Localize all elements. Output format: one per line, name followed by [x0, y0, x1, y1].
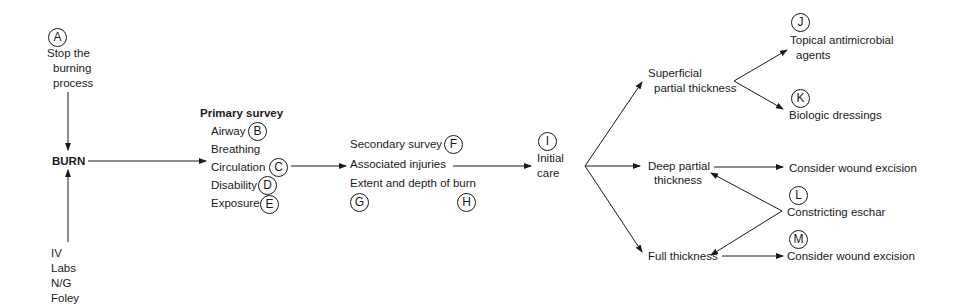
superficial-1: Superficial [648, 66, 702, 80]
label-c: C [269, 158, 288, 177]
extent-depth: Extent and depth of burn [350, 176, 476, 190]
label-l: L [789, 186, 808, 205]
label-h: H [457, 193, 476, 212]
initial-care-2: care [537, 166, 559, 180]
arrow-to-biologic [734, 81, 783, 109]
primary-disability: Disability [211, 178, 257, 192]
label-d: D [258, 176, 277, 195]
topical-2: agents [796, 48, 831, 62]
arrow-to-full [585, 166, 642, 252]
label-m: M [789, 230, 808, 249]
deep-1: Deep partial [648, 159, 710, 173]
stop-text-3: process [53, 76, 93, 90]
label-j: J [791, 13, 810, 32]
full-thickness: Full thickness [648, 249, 718, 263]
label-f: F [444, 135, 463, 154]
support-iv: IV [51, 246, 62, 260]
primary-survey-heading: Primary survey [200, 106, 283, 120]
primary-circulation: Circulation [211, 160, 265, 174]
superficial-2: partial thickness [654, 81, 736, 95]
arrow-to-topical [734, 50, 787, 81]
initial-care-1: Initial [537, 151, 564, 165]
support-ng: N/G [51, 276, 71, 290]
label-e: E [260, 195, 279, 214]
constricting-eschar: Constricting eschar [787, 205, 885, 219]
primary-breathing: Breathing [211, 142, 260, 156]
label-i: I [538, 132, 557, 151]
secondary-survey: Secondary survey [350, 137, 442, 151]
primary-airway: Airway [211, 124, 246, 138]
arrow-to-superficial [585, 82, 642, 166]
label-b: B [248, 122, 267, 141]
arrow-eschar-to-deep [711, 173, 782, 211]
full-excision: Consider wound excision [787, 249, 915, 263]
primary-exposure: Exposure [211, 196, 260, 210]
topical-1: Topical antimicrobial [790, 33, 894, 47]
stop-text-2: burning [53, 61, 91, 75]
label-a: A [48, 28, 67, 47]
support-foley: Foley [51, 291, 79, 305]
label-k: K [791, 89, 810, 108]
burn-node: BURN [52, 154, 85, 168]
deep-2: thickness [654, 173, 702, 187]
label-g: G [350, 193, 369, 212]
biologic-dressings: Biologic dressings [789, 108, 882, 122]
associated-injuries: Associated injuries [350, 157, 446, 171]
stop-text-1: Stop the [47, 46, 90, 60]
arrow-eschar-to-full [711, 211, 782, 255]
support-labs: Labs [51, 261, 76, 275]
deep-excision: Consider wound excision [789, 161, 917, 175]
